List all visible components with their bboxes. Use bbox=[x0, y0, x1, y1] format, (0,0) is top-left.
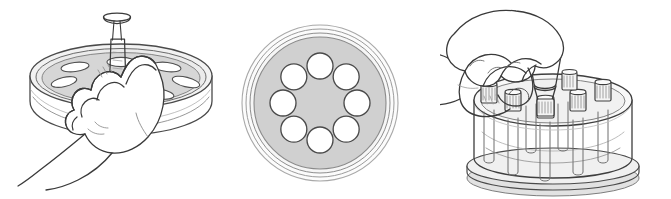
panel-hand-with-syringe-over-dish bbox=[0, 0, 230, 199]
well bbox=[281, 116, 307, 142]
well bbox=[333, 64, 359, 90]
well bbox=[307, 53, 333, 79]
well bbox=[333, 116, 359, 142]
capped-tube bbox=[505, 89, 521, 111]
syringe-plunger-top bbox=[104, 13, 131, 21]
petri-dish-top-view-svg bbox=[230, 0, 430, 199]
tube-cap-ribs bbox=[537, 99, 554, 116]
panel-multiwell-dish-top-view bbox=[230, 0, 430, 199]
capped-tube bbox=[595, 79, 611, 101]
capped-tube bbox=[562, 70, 577, 91]
capped-tube bbox=[570, 89, 586, 111]
well bbox=[307, 127, 333, 153]
illustration-figure bbox=[0, 0, 671, 199]
panel-hand-placing-tube-in-rack bbox=[440, 0, 671, 199]
well bbox=[281, 64, 307, 90]
tube-rack bbox=[467, 70, 639, 197]
well bbox=[344, 90, 370, 116]
well bbox=[270, 90, 296, 116]
